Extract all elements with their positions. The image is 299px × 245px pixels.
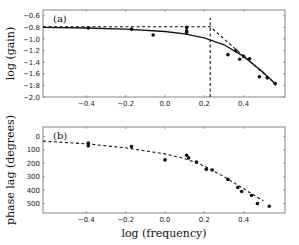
- x-tick-label: 0.4: [238, 216, 250, 224]
- data-point: [238, 58, 242, 62]
- x-tick-label: −0.4: [78, 100, 96, 108]
- x-tick-label: 0.0: [159, 100, 170, 108]
- data-point: [163, 158, 167, 162]
- x-axis-label: log (frequency): [121, 227, 206, 240]
- data-point: [256, 202, 260, 206]
- panel-label: (a): [53, 13, 67, 24]
- y-tick-label: −1.2: [23, 47, 40, 55]
- y-tick-label: 400: [27, 187, 40, 195]
- x-tick-label: 0.4: [238, 100, 250, 108]
- panel-label: (b): [53, 130, 67, 141]
- data-point: [267, 204, 271, 208]
- y-tick-label: 100: [27, 146, 40, 154]
- y-axis-label: phase lag (degrees): [4, 115, 17, 225]
- y-tick-label: −1.8: [23, 82, 40, 90]
- x-tick-label: 0.2: [199, 100, 210, 108]
- data-point: [226, 53, 230, 57]
- plot-area: [43, 10, 285, 97]
- y-tick-label: −0.6: [23, 12, 41, 20]
- panel-b: −0.4−0.20.00.20.40100200300400500(b)phas…: [4, 115, 285, 240]
- data-point: [258, 75, 262, 79]
- x-tick-label: −0.4: [78, 216, 96, 224]
- x-tick-label: 0.2: [199, 216, 210, 224]
- x-tick-label: −0.2: [117, 100, 134, 108]
- plot-area: [43, 127, 285, 213]
- fit-line: [43, 27, 275, 83]
- y-tick-label: −0.8: [23, 24, 40, 32]
- y-tick-label: 200: [27, 160, 40, 168]
- chart-figure: −0.4−0.20.00.20.4−0.6−0.8−1.0−1.2−1.4−1.…: [0, 0, 299, 245]
- y-tick-label: −1.0: [23, 36, 40, 44]
- data-point: [151, 33, 155, 37]
- x-tick-label: 0.0: [159, 216, 170, 224]
- y-axis-label: log (gain): [4, 27, 17, 80]
- data-point: [240, 190, 244, 194]
- x-tick-label: −0.2: [117, 216, 134, 224]
- y-tick-label: −1.6: [23, 70, 41, 78]
- y-tick-label: −2.0: [23, 94, 40, 102]
- y-tick-label: 500: [27, 200, 40, 208]
- y-tick-label: 0: [36, 133, 40, 141]
- asymptote-line: [43, 27, 275, 84]
- data-point: [185, 26, 189, 30]
- fit-line: [43, 141, 263, 201]
- y-tick-label: 300: [27, 173, 40, 181]
- panel-a: −0.4−0.20.00.20.4−0.6−0.8−1.0−1.2−1.4−1.…: [4, 10, 285, 108]
- data-point: [130, 145, 134, 149]
- y-tick-label: −1.4: [23, 59, 41, 67]
